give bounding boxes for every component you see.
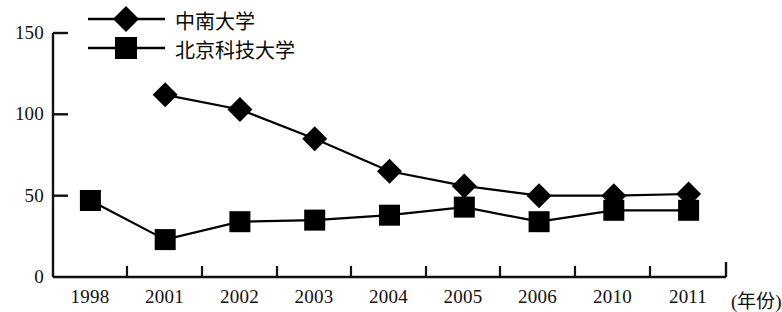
data-point-diamond-icon (302, 126, 327, 151)
data-point-diamond-icon (377, 159, 402, 184)
x-tick-label-2011: 2011 (650, 286, 726, 308)
data-point-diamond-icon (153, 82, 178, 107)
legend-label-series-1: 中南大学 (175, 6, 255, 35)
x-axis-unit-label: (年份) (731, 286, 782, 312)
x-tick-label-2005: 2005 (426, 286, 500, 308)
data-point-square-icon (80, 190, 101, 211)
data-point-diamond-icon (452, 173, 477, 198)
data-point-square-icon (529, 211, 550, 232)
data-point-square-icon (603, 200, 624, 221)
data-series-layer (80, 82, 701, 250)
legend-label-series-2: 北京科技大学 (175, 35, 295, 64)
x-tick-label-1998: 1998 (53, 286, 127, 308)
data-point-square-icon (678, 200, 699, 221)
data-point-diamond-icon (527, 183, 552, 208)
y-tick-label-150: 150 (0, 22, 44, 44)
x-axis-ticks (127, 262, 726, 277)
legend-markers (88, 6, 165, 59)
y-tick-label-50: 50 (0, 185, 44, 207)
x-tick-label-2006: 2006 (500, 286, 575, 308)
x-tick-label-2003: 2003 (277, 286, 351, 308)
y-tick-label-0: 0 (0, 266, 44, 288)
data-point-square-icon (379, 205, 400, 226)
x-tick-label-2010: 2010 (575, 286, 650, 308)
axis-lines (53, 33, 726, 277)
legend-marker-square-icon (115, 37, 137, 59)
data-point-diamond-icon (227, 97, 252, 122)
data-point-square-icon (304, 210, 325, 231)
x-tick-label-2004: 2004 (351, 286, 426, 308)
x-tick-label-2001: 2001 (127, 286, 202, 308)
y-tick-label-100: 100 (0, 103, 44, 125)
legend-marker-diamond-icon (113, 6, 139, 32)
x-tick-label-2002: 2002 (202, 286, 277, 308)
y-axis-ticks (53, 33, 68, 196)
data-point-square-icon (155, 229, 176, 250)
data-point-square-icon (454, 197, 475, 218)
data-point-square-icon (229, 211, 250, 232)
